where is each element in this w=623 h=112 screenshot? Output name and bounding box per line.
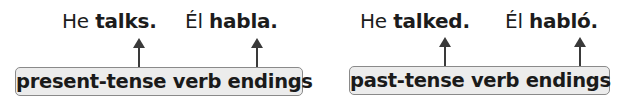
spanish-subject: Él xyxy=(185,9,203,33)
english-present-sentence: He talks. xyxy=(62,8,157,34)
english-verb: talked. xyxy=(393,9,470,33)
spanish-present-sentence: Él habla. xyxy=(185,8,278,34)
english-verb: talks. xyxy=(95,9,157,33)
past-tense-label: past-tense verb endings xyxy=(349,66,610,95)
english-subject: He xyxy=(360,9,387,33)
spanish-verb: habló. xyxy=(529,9,598,33)
spanish-verb: habla. xyxy=(209,9,278,33)
spanish-subject: Él xyxy=(505,9,523,33)
english-past-sentence: He talked. xyxy=(360,8,470,34)
arrow-up-icon xyxy=(138,47,140,67)
spanish-past-sentence: Él habló. xyxy=(505,8,598,34)
arrow-up-icon xyxy=(444,46,446,66)
arrow-up-icon xyxy=(579,46,581,66)
present-tense-label: present-tense verb endings xyxy=(15,67,303,96)
arrow-up-icon xyxy=(256,47,258,67)
english-subject: He xyxy=(62,9,89,33)
